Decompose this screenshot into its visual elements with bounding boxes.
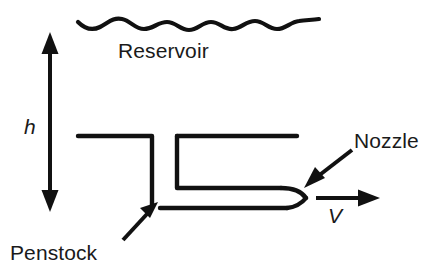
nozzle-callout-arrow bbox=[304, 150, 352, 188]
penstock-label: Penstock bbox=[10, 242, 97, 263]
jet-velocity-arrow bbox=[316, 190, 380, 207]
penstock-callout-arrow bbox=[123, 202, 158, 240]
nozzle-label: Nozzle bbox=[354, 130, 419, 151]
hydro-schematic-diagram: Reservoir Penstock Nozzle h V bbox=[0, 0, 431, 271]
penstock-nozzle-outline bbox=[78, 136, 306, 208]
head-dimension-arrow bbox=[42, 32, 59, 212]
reservoir-label: Reservoir bbox=[118, 40, 209, 61]
head-symbol-label: h bbox=[24, 116, 36, 137]
velocity-symbol-label: V bbox=[328, 205, 342, 226]
water-surface-wave bbox=[78, 19, 319, 30]
